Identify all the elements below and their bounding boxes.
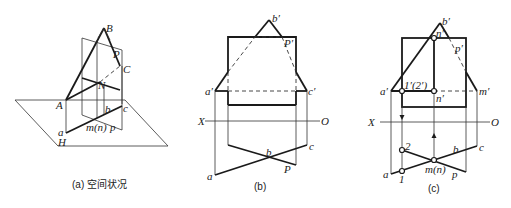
- label-m-prime: m′: [479, 85, 490, 97]
- label-P-prime: P′: [283, 37, 294, 49]
- label-P: P: [283, 163, 291, 175]
- label-H: H: [57, 136, 67, 148]
- label-O: O: [321, 115, 329, 127]
- label-c: c: [123, 102, 128, 114]
- line-ac-h: [215, 145, 307, 175]
- label-b-prime: b′: [272, 12, 281, 24]
- label-c: c: [309, 140, 314, 152]
- label-c: c: [479, 141, 484, 153]
- label-B: B: [106, 22, 113, 34]
- label-X: X: [197, 115, 206, 127]
- label-p-prime: p′: [454, 42, 464, 54]
- caption-c: (c): [428, 183, 440, 194]
- panel-c: b′ n′ p′ a′ 1′(2′) n′ m′ X O 2 b c a m(n…: [367, 15, 499, 194]
- edge-ab-prime-hidden: [228, 37, 255, 72]
- label-X: X: [367, 116, 376, 128]
- caption-b: (b): [254, 181, 266, 192]
- line-P-h: [228, 145, 296, 165]
- label-a: a: [383, 168, 389, 180]
- label-n-prime-top: n′: [436, 27, 445, 39]
- label-mn: m(n): [425, 163, 446, 176]
- panel-a-spatial: B P C N A b c a m(n) p H (a) 空间状况: [15, 22, 168, 190]
- label-b: b: [266, 146, 272, 158]
- label-O: O: [491, 116, 499, 128]
- label-1-2-prime: 1′(2′): [404, 79, 427, 92]
- edge-bc-prime-low: [296, 72, 307, 91]
- label-mn: m(n): [86, 121, 107, 134]
- arrow-down-icon: [400, 115, 405, 120]
- label-1: 1: [399, 173, 405, 185]
- label-P: P: [112, 48, 120, 60]
- label-n-prime: n′: [436, 92, 445, 104]
- label-c-prime: c′: [308, 85, 316, 97]
- label-b: b: [453, 143, 459, 155]
- label-N: N: [97, 79, 106, 91]
- caption-a: (a) 空间状况: [72, 178, 127, 190]
- label-a: a: [207, 170, 213, 182]
- label-a-prime: a′: [380, 85, 389, 97]
- label-a-prime: a′: [205, 85, 214, 97]
- label-b: b: [105, 103, 111, 115]
- label-A: A: [55, 99, 63, 111]
- label-p: p: [109, 121, 116, 133]
- arrow-up-icon: [432, 133, 437, 138]
- edge-ab-prime-top: [255, 20, 269, 37]
- point-mn: [432, 158, 437, 163]
- label-C: C: [123, 63, 131, 75]
- edge-ab-prime-low: [215, 72, 228, 91]
- panel-b: b′ P′ a′ c′ X O b c a P (b): [197, 12, 329, 192]
- label-p: p: [451, 168, 458, 180]
- projection-diagram: B P C N A b c a m(n) p H (a) 空间状况: [0, 0, 511, 208]
- edge-bm-prime-low: [466, 72, 477, 91]
- label-b-prime: b′: [442, 15, 451, 27]
- point-2: [400, 148, 405, 153]
- label-2: 2: [405, 140, 411, 152]
